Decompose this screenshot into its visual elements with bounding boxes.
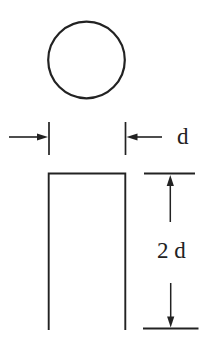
cylinder-top-view-circle — [48, 22, 125, 99]
cylinder-dimension-diagram: d 2 d — [0, 0, 206, 345]
height-label: 2 d — [157, 238, 186, 263]
diameter-dimension-left-arrowhead-icon — [37, 133, 48, 140]
height-dimension-down-arrowhead-icon — [167, 317, 174, 328]
diagram-svg: d 2 d — [0, 0, 206, 345]
cylinder-front-view-outline — [49, 174, 126, 331]
diameter-label: d — [177, 124, 189, 149]
